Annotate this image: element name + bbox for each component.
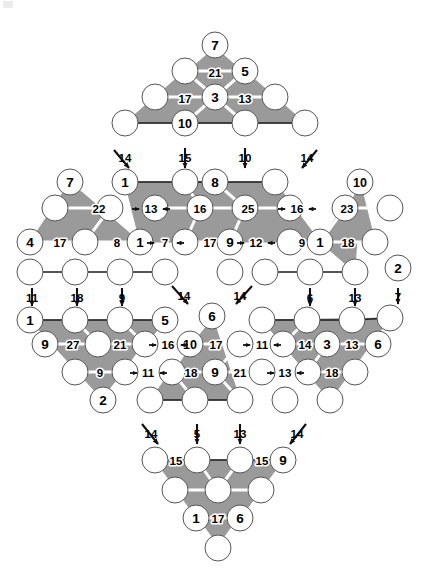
node-circle[interactable] bbox=[172, 169, 198, 195]
node-circle[interactable] bbox=[112, 359, 138, 385]
edge-weight-label: 16 bbox=[162, 339, 175, 351]
node-number: 9 bbox=[226, 235, 234, 250]
node-circle[interactable] bbox=[248, 477, 274, 503]
node-circle[interactable] bbox=[262, 169, 288, 195]
boundary-weight-label: 10 bbox=[239, 152, 252, 164]
edge-weight-label: 25 bbox=[242, 203, 255, 215]
corner-artifact bbox=[3, 1, 13, 8]
figure-canvas: 7531071810419121569103692916 21211717131… bbox=[0, 0, 429, 577]
node-number: 10 bbox=[353, 176, 367, 190]
boundary-weight-label: 14 bbox=[301, 152, 314, 164]
node-number: 9 bbox=[279, 453, 287, 468]
node-circle[interactable] bbox=[292, 110, 318, 136]
node-circle[interactable] bbox=[232, 110, 258, 136]
edge-weight-label: 27 bbox=[67, 339, 80, 351]
boundary-weight-label: 13 bbox=[349, 292, 362, 304]
edge-weight-label: 9 bbox=[97, 367, 103, 379]
node-number: 2 bbox=[99, 393, 107, 408]
node-circle[interactable] bbox=[217, 259, 243, 285]
edge-weight-label: 9 bbox=[299, 237, 305, 249]
boundary-weight-label: 6 bbox=[307, 292, 313, 304]
edge-weight-label: 21 bbox=[234, 367, 247, 379]
node-circle[interactable] bbox=[339, 307, 365, 333]
node-circle[interactable] bbox=[362, 229, 388, 255]
node-circle[interactable] bbox=[342, 259, 368, 285]
node-circle[interactable] bbox=[262, 84, 288, 110]
node-number: 7 bbox=[66, 175, 74, 190]
edge-weight-label: 12 bbox=[250, 237, 263, 249]
edge-weight-label: 18 bbox=[342, 237, 355, 249]
node-circle[interactable] bbox=[85, 331, 111, 357]
edge-weight-label: 18 bbox=[185, 367, 198, 379]
edge-weight-label: 15 bbox=[256, 455, 269, 467]
node-circle[interactable] bbox=[172, 58, 198, 84]
node-circle[interactable] bbox=[172, 229, 198, 255]
node-circle[interactable] bbox=[62, 359, 88, 385]
node-circle[interactable] bbox=[297, 259, 323, 285]
node-circle[interactable] bbox=[270, 331, 296, 357]
edge-weight-label: 17 bbox=[212, 513, 225, 525]
node-circle[interactable] bbox=[42, 195, 68, 221]
node-circle[interactable] bbox=[62, 307, 88, 333]
node-circle[interactable] bbox=[294, 307, 320, 333]
boundary-weight-label: 18 bbox=[71, 292, 84, 304]
edge-weight-label: 11 bbox=[256, 339, 269, 351]
node-number: 3 bbox=[211, 90, 219, 105]
node-number: 9 bbox=[211, 365, 219, 380]
edge-weight-label: 7 bbox=[162, 237, 168, 249]
node-circle[interactable] bbox=[377, 195, 403, 221]
node-circle[interactable] bbox=[227, 447, 253, 473]
node-number: 1 bbox=[121, 175, 129, 190]
node-number: 4 bbox=[26, 235, 34, 250]
edge-weight-label: 13 bbox=[145, 203, 158, 215]
node-circle[interactable] bbox=[152, 259, 178, 285]
shaded-triangle-regions bbox=[30, 45, 390, 548]
node-number: 1 bbox=[136, 235, 144, 250]
node-circle[interactable] bbox=[132, 331, 158, 357]
node-circle[interactable] bbox=[205, 535, 231, 561]
edge-weight-label: 21 bbox=[114, 339, 127, 351]
node-circle[interactable] bbox=[377, 305, 403, 331]
node-number: 10 bbox=[178, 117, 192, 131]
node-circle[interactable] bbox=[137, 387, 163, 413]
node-circle[interactable] bbox=[249, 359, 275, 385]
node-circle[interactable] bbox=[184, 447, 210, 473]
edge-weight-label: 17 bbox=[210, 339, 223, 351]
edge-weight-label: 17 bbox=[179, 93, 192, 105]
node-circle[interactable] bbox=[17, 259, 43, 285]
node-circle[interactable] bbox=[142, 84, 168, 110]
node-number: 5 bbox=[241, 64, 249, 79]
boundary-weight-label: 14 bbox=[145, 428, 158, 440]
node-number: 8 bbox=[211, 175, 219, 190]
node-circle[interactable] bbox=[272, 387, 298, 413]
node-circle[interactable] bbox=[317, 387, 343, 413]
edge-weight-label: 14 bbox=[299, 339, 312, 351]
node-circle[interactable] bbox=[227, 387, 253, 413]
node-circle[interactable] bbox=[295, 359, 321, 385]
boundary-weight-label: 11 bbox=[26, 292, 39, 304]
edge-weight-label: 18 bbox=[326, 367, 339, 379]
boundary-weight-label: 5 bbox=[194, 428, 201, 440]
node-circle[interactable] bbox=[72, 229, 98, 255]
node-circle[interactable] bbox=[107, 259, 133, 285]
node-circle[interactable] bbox=[342, 359, 368, 385]
node-circle[interactable] bbox=[227, 331, 253, 357]
node-number: 1 bbox=[316, 235, 324, 250]
edge-weight-label: 15 bbox=[170, 455, 183, 467]
node-circle[interactable] bbox=[107, 307, 133, 333]
node-circle[interactable] bbox=[182, 387, 208, 413]
node-circle[interactable] bbox=[112, 110, 138, 136]
edge-weight-label: 21 bbox=[209, 67, 222, 79]
node-circle[interactable] bbox=[159, 359, 185, 385]
node-circle[interactable] bbox=[252, 259, 278, 285]
boundary-weight-label: 9 bbox=[119, 292, 125, 304]
node-circle[interactable] bbox=[142, 447, 168, 473]
edge-weight-label: 17 bbox=[54, 237, 67, 249]
boundary-weight-label: 13 bbox=[234, 428, 247, 440]
node-circle[interactable] bbox=[249, 307, 275, 333]
node-circle[interactable] bbox=[162, 477, 188, 503]
node-circle[interactable] bbox=[62, 259, 88, 285]
node-number: 1 bbox=[26, 313, 34, 328]
node-circle[interactable] bbox=[205, 477, 231, 503]
edge-weight-label: 13 bbox=[279, 367, 292, 379]
